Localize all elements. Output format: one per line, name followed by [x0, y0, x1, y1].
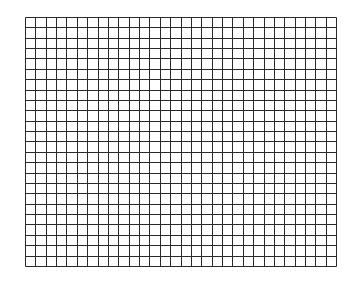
canvas: [0, 0, 358, 285]
square-grid: [25, 17, 338, 267]
grid-lines: [25, 17, 338, 267]
